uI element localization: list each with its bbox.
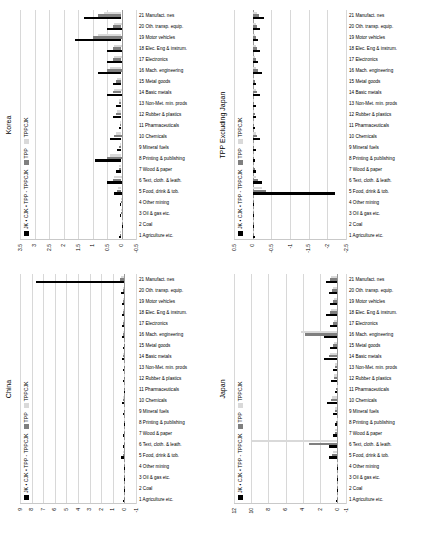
x-axis-category-label: 3 Oil & gas etc.: [139, 211, 170, 216]
x-axis-category-label: 4 Other mining: [349, 464, 379, 469]
legend-entry: JK • CJK • TPP - TPPCJK: [23, 169, 29, 236]
x-axis-category-label: 21 Manufact. nes: [349, 277, 384, 282]
x-axis-category-label: 9 Mineral fuels: [139, 409, 169, 414]
bar: [124, 465, 125, 467]
legend-label: JK • CJK • TPP - TPPCJK: [23, 433, 29, 493]
bar: [253, 157, 254, 159]
legend-entry: TPPCJK: [23, 117, 29, 144]
bar: [123, 353, 124, 355]
bar: [121, 209, 122, 211]
y-axis-tick-label: -0.5: [268, 244, 274, 266]
y-axis-tick-label: 2.5: [46, 244, 52, 266]
bar: [333, 369, 337, 371]
bar: [98, 34, 121, 36]
bar: [124, 418, 125, 420]
bar: [113, 91, 122, 93]
legend-label: TPPCJK: [23, 117, 29, 137]
bar: [332, 454, 337, 456]
bar: [124, 487, 125, 489]
bar: [253, 45, 256, 47]
x-axis-category-label: 12 Rubber & plastics: [139, 376, 181, 381]
bar: [324, 336, 337, 338]
bar: [124, 344, 125, 346]
bar: [253, 50, 260, 52]
bar: [253, 69, 259, 71]
bar: [114, 45, 121, 47]
bar: [253, 105, 256, 107]
bar: [114, 56, 121, 58]
bar: [333, 322, 337, 324]
bar: [104, 12, 121, 14]
bar: [123, 309, 124, 311]
bar: [253, 36, 256, 38]
y-axis-tick-label: 2: [317, 508, 323, 530]
bar: [110, 67, 122, 69]
y-axis-tick-label: 0: [118, 244, 124, 266]
bar: [253, 58, 256, 60]
chart-panel-japan: Japan-1024681012JK • CJK • TPP - TPPCJKT…: [218, 268, 424, 530]
bar: [330, 347, 337, 349]
bar: [253, 94, 260, 96]
bar: [253, 102, 254, 104]
bar: [335, 410, 338, 412]
x-axis-category-label: 19 Motor vehicles: [349, 299, 385, 304]
x-axis-category-label: 8 Printing & publishing: [349, 156, 395, 161]
bar: [113, 83, 122, 85]
bar: [253, 56, 255, 58]
legend-swatch: [238, 139, 243, 144]
y-axis-tick-label: -2: [324, 244, 330, 266]
gridline: [55, 274, 56, 504]
bar: [253, 78, 254, 80]
bar: [333, 344, 337, 346]
x-axis-category-label: 18 Elec. Eng & instrum.: [349, 310, 397, 315]
bar: [253, 80, 255, 82]
bar: [333, 413, 337, 415]
legend-entry: TPPCJK: [237, 381, 243, 408]
bar: [124, 374, 125, 376]
bar: [114, 23, 121, 25]
bar: [36, 281, 124, 283]
y-axis-tick-label: 12: [231, 508, 237, 530]
figure-container: China-10123456789JK • CJK • TPP - TPPCJK…: [0, 0, 428, 535]
x-axis-category-label: 1 Agriculture etc.: [349, 497, 383, 502]
y-axis-tick-label: 1: [89, 244, 95, 266]
x-axis-category-label: 1 Agriculture etc.: [349, 233, 383, 238]
zero-line: [337, 274, 338, 504]
bar: [107, 69, 122, 71]
bar: [121, 456, 124, 458]
bar: [253, 165, 254, 167]
x-axis-category-label: 15 Metal goods: [139, 79, 170, 84]
bar: [337, 473, 338, 475]
x-axis-category-label: 16 Mach. engineering: [349, 68, 393, 73]
bar: [123, 331, 124, 333]
bar: [253, 116, 257, 118]
x-axis-category-label: 11 Pharmaceuticals: [349, 387, 389, 392]
bar: [107, 181, 122, 183]
legend: JK • CJK • TPP - TPPCJKTPPTPPCJK: [237, 377, 243, 500]
legend-entry: JK • CJK • TPP - TPPCJK: [237, 169, 243, 236]
gridline: [309, 10, 310, 240]
bar: [123, 322, 124, 324]
x-axis-category-label: 14 Basic metals: [349, 90, 381, 95]
y-axis-tick-label: -0.5: [133, 244, 139, 266]
bar: [337, 484, 338, 486]
x-axis-category-label: 4 Other mining: [139, 464, 169, 469]
legend-swatch: [24, 139, 29, 144]
x-axis-category-label: 20 Oth. transp. equip.: [139, 288, 183, 293]
x-axis-category-label: 14 Basic metals: [349, 354, 381, 359]
bar: [252, 440, 337, 442]
legend-swatch: [238, 403, 243, 408]
legend-label: TPPCJK: [237, 381, 243, 401]
legend-entry: TPPCJK: [237, 117, 243, 144]
gridline: [32, 274, 33, 504]
bar: [253, 154, 254, 156]
bar: [253, 212, 254, 214]
bar: [124, 476, 125, 478]
bar: [113, 179, 122, 181]
bar: [122, 220, 123, 222]
bar: [122, 336, 124, 338]
bar: [334, 298, 337, 300]
bar: [124, 366, 125, 368]
bar: [253, 91, 257, 93]
x-axis-category-label: 11 Pharmaceuticals: [349, 123, 389, 128]
